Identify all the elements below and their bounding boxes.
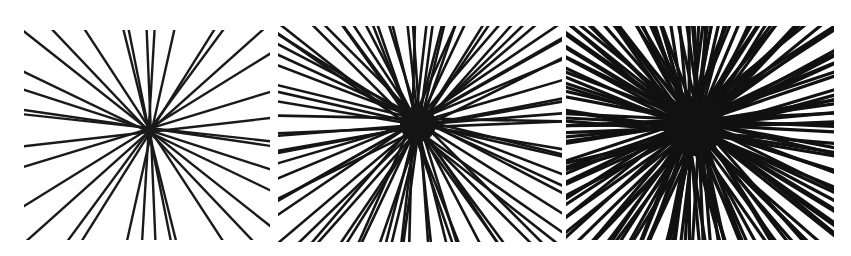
line-pattern-panel-dense (566, 26, 834, 240)
line-pattern-panel-sparse (24, 30, 270, 240)
center-convergence-blob (145, 125, 155, 135)
cropped-caption-fragment (0, 0, 200, 8)
line-pattern-svg (278, 26, 562, 242)
line-pattern-svg (566, 26, 834, 240)
line-pattern-svg (24, 30, 270, 240)
center-convergence-blob (664, 96, 724, 156)
line-pattern-panel-medium (278, 26, 562, 242)
center-convergence-blob (400, 106, 436, 142)
